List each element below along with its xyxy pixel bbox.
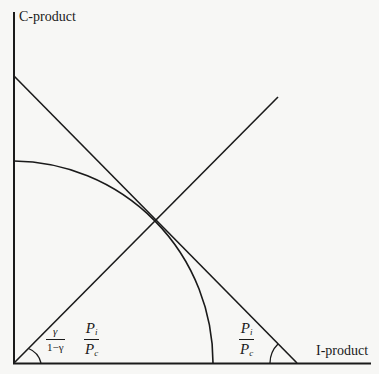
- subscript-i: i: [250, 327, 253, 337]
- fraction-bar: [239, 339, 254, 340]
- diagram-canvas: [0, 0, 379, 374]
- p-symbol: P: [85, 341, 94, 357]
- gamma-numerator: γ: [52, 326, 58, 337]
- y-axis-label: C-product: [19, 10, 76, 24]
- p-symbol: P: [241, 320, 250, 336]
- origin-price-ratio: Pi Pc: [84, 321, 99, 358]
- price-ratio-denominator: Pc: [84, 342, 99, 358]
- subscript-c: c: [249, 348, 253, 358]
- intercept-price-ratio: Pi Pc: [239, 321, 254, 358]
- origin-angle-arc: [29, 349, 42, 364]
- fraction-bar: [84, 339, 99, 340]
- subscript-c: c: [94, 348, 98, 358]
- gamma-denominator: 1−γ: [46, 342, 65, 353]
- subscript-i: i: [95, 327, 98, 337]
- gamma-fraction: γ 1−γ: [46, 326, 65, 353]
- p-symbol: P: [86, 320, 95, 336]
- p-symbol: P: [240, 341, 249, 357]
- price-ratio-numerator: Pi: [240, 321, 254, 337]
- price-ratio-numerator: Pi: [85, 321, 99, 337]
- price-ratio-denominator: Pc: [239, 342, 254, 358]
- x-axis-label: I-product: [316, 344, 368, 358]
- intercept-angle-arc: [270, 344, 278, 363]
- fraction-bar: [46, 339, 65, 340]
